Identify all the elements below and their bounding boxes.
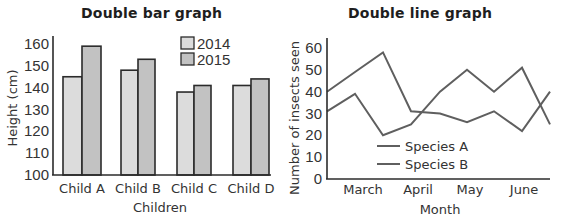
bar-y-tick: 150 [24,57,49,74]
bar-child-b-2014 [121,70,138,175]
bar-child-b-2015 [138,59,155,175]
line-y-tick: 0 [314,170,322,187]
line-chart: 0102030405060 MarchAprilMayJune Month Nu… [287,38,550,217]
line-y-tick: 20 [305,126,322,143]
line-y-axis-label: Number of insects seen [287,41,302,195]
legend-swatch-2014 [181,37,194,49]
line-species-a [327,52,550,131]
bar-y-tick: 160 [24,35,49,52]
line-x-axis-label: Month [420,202,461,217]
bar-series [63,46,269,175]
bar-y-tick: 110 [25,144,49,161]
line-series [327,52,550,135]
bar-child-a-2014 [63,77,82,175]
line-y-tick: 60 [305,39,322,56]
line-x-tick-labels: MarchAprilMayJune [343,182,538,197]
line-x-tick: April [403,182,433,197]
line-y-tick: 10 [305,148,322,165]
bar-child-d-2015 [251,79,269,175]
line-x-tick: March [343,182,383,197]
charts-canvas: 100110120130140150160 Child AChild BChil… [0,0,563,218]
bar-legend: 2014 2015 [181,35,230,68]
bar-child-c-2015 [194,85,211,175]
line-species-b [327,68,550,136]
line-y-tick-labels: 0102030405060 [305,39,322,187]
bar-y-axis-label: Height (cm) [5,69,20,146]
bar-child-d-2014 [233,85,251,175]
line-legend: Species A Species B [377,139,468,172]
bar-x-tick-labels: Child AChild BChild CChild D [59,181,274,196]
legend-label-species-a: Species A [405,139,468,154]
bar-child-c-2014 [177,92,194,175]
legend-label-2014: 2014 [197,35,230,52]
legend-label-species-b: Species B [405,157,468,172]
bar-x-axis-label: Children [133,200,187,215]
bar-y-tick: 130 [24,101,49,118]
bar-x-tick: Child A [59,181,105,196]
line-x-tick: May [457,182,484,197]
bar-y-tick: 120 [24,122,49,139]
bar-y-tick: 140 [24,79,49,96]
bar-y-tick: 100 [24,166,49,183]
bar-chart: 100110120130140150160 Child AChild BChil… [5,35,274,215]
bar-x-tick: Child C [171,181,217,196]
bar-y-tick-labels: 100110120130140150160 [24,35,49,183]
line-y-tick: 30 [305,105,322,122]
legend-label-2015: 2015 [197,51,230,68]
legend-swatch-2015 [181,53,194,65]
line-x-tick: June [509,182,538,197]
bar-x-tick: Child B [115,181,161,196]
line-y-tick: 40 [305,83,322,100]
bar-child-a-2015 [82,46,101,175]
bar-x-tick: Child D [228,181,275,196]
line-y-tick: 50 [305,61,322,78]
